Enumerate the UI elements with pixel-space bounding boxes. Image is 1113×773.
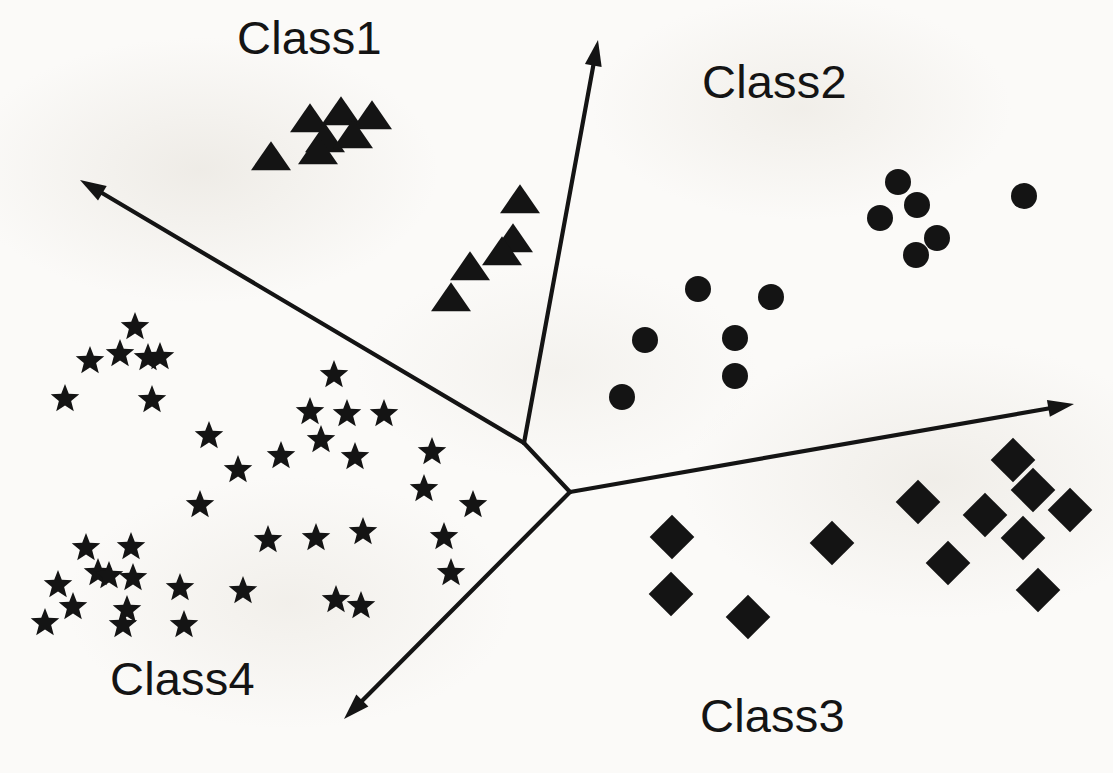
marker-class4 [224,455,253,482]
marker-class4 [113,595,142,622]
marker-class3 [963,493,1008,538]
marker-class4 [333,399,362,426]
marker-class2 [722,325,748,351]
marker-class3 [1001,516,1046,561]
marker-class2 [885,169,911,195]
marker-class4 [437,558,466,585]
marker-class4 [72,533,101,560]
marker-class4 [370,399,399,426]
marker-class4 [349,517,378,544]
marker-class2 [685,276,711,302]
marker-class3 [810,521,855,566]
marker-class4 [166,573,195,600]
marker-class2 [904,192,930,218]
marker-class3 [1016,568,1061,613]
marker-class4 [121,312,150,339]
marker-class4 [418,437,447,464]
marker-class4 [267,441,296,468]
marker-class2 [903,242,929,268]
marker-class4 [410,474,439,501]
marker-class4 [322,585,351,612]
class-label-class3: Class3 [700,692,845,739]
class-label-class2: Class2 [702,58,847,105]
marker-class2 [609,384,635,410]
marker-class3 [726,595,771,640]
marker-class4 [195,421,224,448]
figure-canvas: Class1 Class2 Class3 Class4 [0,0,1113,773]
series-class2 [609,169,1037,410]
marker-class4 [347,591,376,618]
marker-class2 [758,284,784,310]
class-label-class4: Class4 [110,655,255,702]
marker-class2 [722,363,748,389]
marker-class4 [138,385,167,412]
marker-class4 [307,425,336,452]
marker-class4 [254,525,283,552]
marker-class4 [170,610,199,637]
marker-class3 [650,515,695,560]
marker-class3 [896,480,941,525]
class-label-class1: Class1 [237,14,382,61]
marker-class1 [251,141,291,170]
marker-class4 [186,490,215,517]
marker-class2 [632,327,658,353]
marker-class1 [431,282,471,311]
marker-class4 [31,608,60,635]
series-class3 [649,438,1093,640]
marker-class4 [320,360,349,387]
marker-class4 [44,570,73,597]
marker-class1 [450,251,490,280]
marker-class2 [867,205,893,231]
marker-class4 [117,532,146,559]
marker-class4 [119,563,148,590]
marker-class4 [430,522,459,549]
marker-class4 [296,397,325,424]
marker-class4 [459,490,488,517]
series-class1 [251,96,540,311]
marker-class4 [341,442,370,469]
marker-class4 [229,576,258,603]
marker-class4 [106,339,135,366]
marker-class2 [924,225,950,251]
marker-class3 [926,541,971,586]
marker-class4 [76,346,105,373]
marker-class2 [1011,183,1037,209]
marker-class3 [649,572,694,617]
marker-class1 [321,96,361,125]
marker-class3 [1048,488,1093,533]
marker-class4 [302,523,331,550]
marker-class1 [352,100,392,129]
marker-class4 [51,384,80,411]
marker-class1 [500,184,540,213]
series-class4 [31,312,488,637]
marker-class4 [59,592,88,619]
